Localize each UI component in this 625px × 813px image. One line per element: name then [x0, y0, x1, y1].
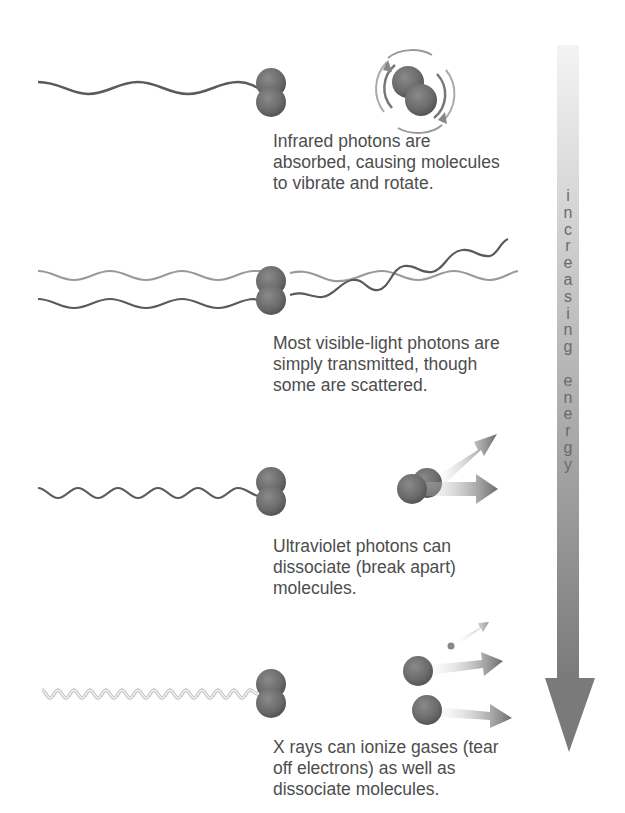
- molecule-icon: [256, 68, 286, 117]
- dissociated-atom-lower: [412, 695, 512, 728]
- infrared-caption: Infrared photons are absorbed, causing m…: [273, 131, 500, 194]
- infrared-wave: [38, 82, 264, 94]
- visible-light-panel: [38, 239, 518, 315]
- scattered-wave: [290, 239, 508, 297]
- ejected-electron: [448, 622, 490, 650]
- ultraviolet-wave: [38, 488, 258, 498]
- molecule-icon: [256, 467, 286, 516]
- molecule-icon: [256, 266, 286, 315]
- increasing-energy-label: i n c r e a s i n g e n e r g y: [559, 188, 577, 474]
- xray-panel: [42, 622, 512, 728]
- diagram-artwork: [0, 0, 625, 813]
- vibrating-rotating-molecule-icon: [376, 50, 454, 133]
- ultraviolet-panel: [38, 434, 498, 516]
- infrared-panel: [38, 50, 454, 133]
- xray-caption: X rays can ionize gases (tear off electr…: [273, 737, 499, 800]
- molecule-icon: [256, 669, 286, 718]
- visible-wave-dark: [38, 299, 262, 308]
- visible-wave-transmitted-light: [38, 271, 262, 280]
- visible-light-caption: Most visible-light photons are simply tr…: [273, 333, 500, 396]
- dissociated-atom-upper: [403, 652, 503, 686]
- ultraviolet-caption: Ultraviolet photons can dissociate (brea…: [273, 536, 456, 599]
